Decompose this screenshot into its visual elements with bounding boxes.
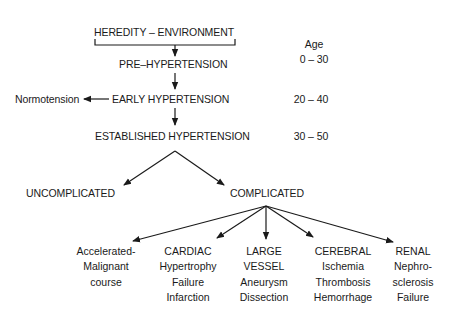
early-hypertension-node: EARLY HYPERTENSION [112,93,229,105]
established-hypertension-node: ESTABLISHED HYPERTENSION [95,130,250,142]
connector-lines [0,0,456,318]
age-range-established: 30 – 50 [294,130,328,142]
complication-cardiac: CARDIAC Hypertrophy Failure Infarction [159,244,216,306]
complication-renal: RENAL Nephro- sclerosis Failure [393,244,434,306]
uncomplicated-node: UNCOMPLICATED [26,187,115,199]
age-header: Age [305,38,323,50]
complication-large-vessel: LARGE VESSEL Aneurysm Dissection [240,244,288,306]
normotension-node: Normotension [15,93,79,105]
pre-hypertension-node: PRE–HYPERTENSION [119,58,228,70]
heredity-environment-node: HEREDITY – ENVIRONMENT [94,26,234,38]
age-range-early: 20 – 40 [294,93,328,105]
age-range-pre: 0 – 30 [300,53,329,65]
complication-accelerated-malignant: Accelerated- Malignant course [77,244,136,290]
complicated-node: COMPLICATED [230,187,304,199]
complication-cerebral: CEREBRAL Ischemia Thrombosis Hemorrhage [314,244,372,306]
